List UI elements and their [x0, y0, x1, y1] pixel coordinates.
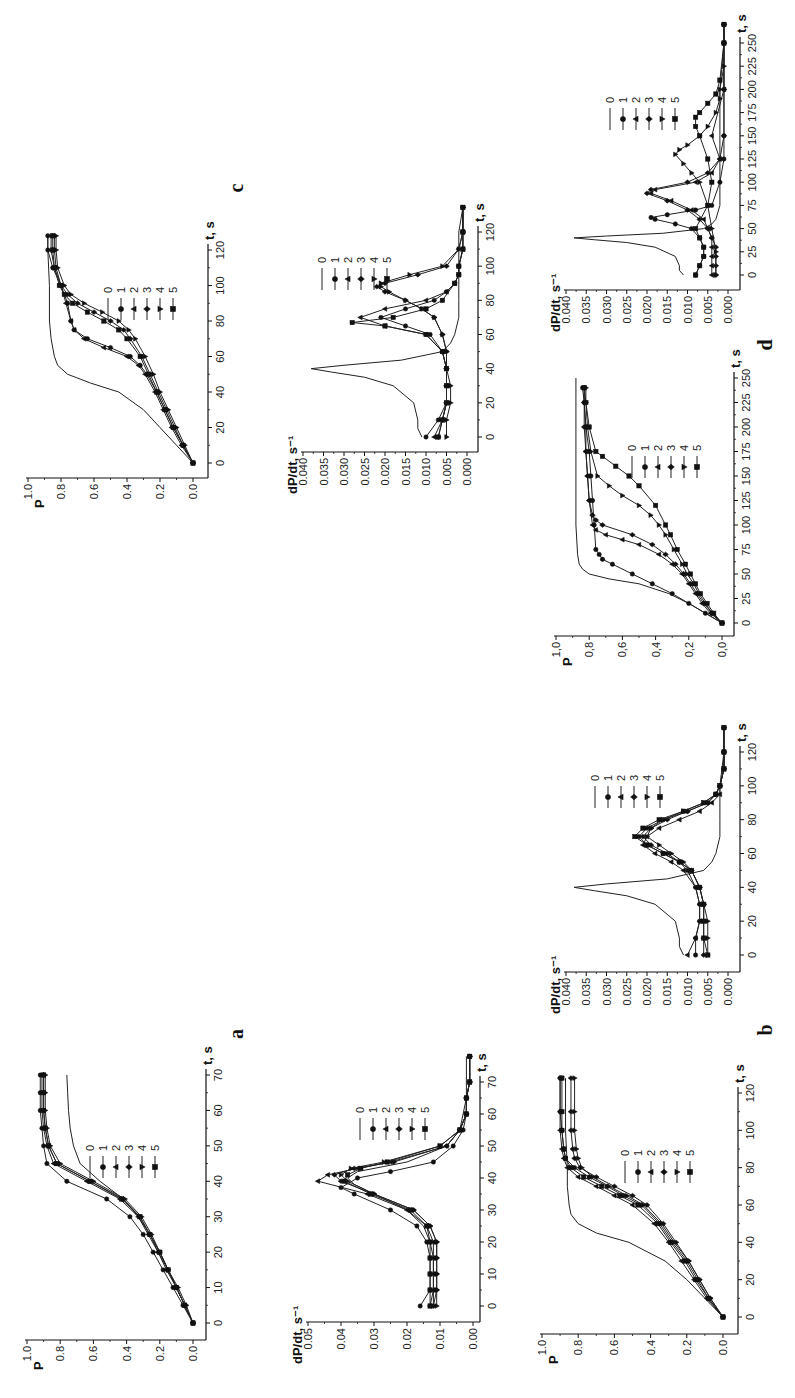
- triangle-up-marker: [697, 809, 701, 814]
- x-tick-label: 100: [744, 1121, 756, 1139]
- square-marker: [720, 621, 724, 625]
- x-tick-label: 50: [740, 568, 752, 580]
- y-axis-title: P: [31, 1361, 46, 1370]
- x-tick-label: 80: [744, 1162, 756, 1174]
- square-marker: [582, 386, 586, 390]
- y-tick-label: 0.035: [580, 296, 592, 324]
- x-tick-label: 40: [746, 881, 758, 893]
- triangle-up-marker: [677, 817, 681, 822]
- diamond-marker: [91, 310, 97, 315]
- circle-marker: [630, 572, 634, 576]
- circle-marker: [620, 116, 625, 121]
- series-4: [339, 1054, 472, 1308]
- square-marker: [155, 390, 159, 394]
- square-marker: [152, 1164, 157, 1169]
- x-tick-label: 80: [484, 294, 496, 306]
- square-marker: [428, 1256, 432, 1260]
- square-marker: [697, 110, 701, 114]
- square-marker: [683, 1259, 687, 1263]
- series-5: [582, 386, 724, 626]
- square-marker: [706, 203, 710, 207]
- square-marker: [345, 1173, 349, 1177]
- legend: 012345: [354, 1107, 431, 1140]
- legend-label: 1: [329, 257, 341, 263]
- y-tick-label: 0.025: [359, 458, 371, 486]
- square-marker: [633, 834, 637, 838]
- square-marker: [425, 1224, 429, 1228]
- circle-marker: [424, 435, 428, 439]
- square-marker: [102, 319, 106, 323]
- square-marker: [687, 1169, 692, 1174]
- y-axis-title: dP/dt, s⁻¹: [548, 956, 563, 1014]
- square-marker: [668, 1240, 672, 1244]
- y-axis-title: dP/dt, s⁻¹: [548, 274, 563, 332]
- series-0: [348, 1056, 467, 1306]
- diamond-marker: [713, 245, 719, 250]
- circle-marker: [415, 1224, 419, 1228]
- triangle-up-marker: [101, 345, 105, 350]
- triangle-down-marker: [410, 1126, 415, 1132]
- triangle-up-marker: [423, 298, 427, 303]
- y-tick-label: 0.020: [641, 296, 653, 324]
- square-marker: [461, 247, 465, 251]
- x-tick-label: 120: [484, 223, 496, 241]
- x-tick-label: 100: [214, 276, 226, 294]
- y-tick-label: 0.4: [121, 1346, 133, 1361]
- legend: 012345: [604, 97, 681, 130]
- square-marker: [702, 936, 706, 940]
- circle-marker: [428, 332, 432, 336]
- legend-label: 4: [671, 1150, 683, 1156]
- y-tick-label: 0.0: [717, 1340, 729, 1355]
- x-axis-title: t, s: [474, 1053, 489, 1072]
- square-marker: [51, 234, 55, 238]
- y-tick-label: 0.2: [154, 1346, 166, 1361]
- series-3: [581, 385, 725, 625]
- x-tick-label: 25: [746, 246, 758, 258]
- circle-marker: [65, 1179, 69, 1183]
- circle-marker: [718, 180, 722, 184]
- series-line: [575, 1078, 723, 1317]
- square-marker: [594, 449, 598, 453]
- square-marker: [438, 1144, 442, 1148]
- triangle-up-marker: [633, 116, 638, 122]
- square-marker: [627, 474, 631, 478]
- triangle-up-marker: [685, 953, 689, 958]
- x-tick-label: 0: [744, 1314, 756, 1320]
- y-tick-label: 0.015: [661, 296, 673, 324]
- x-tick-label: 30: [486, 1204, 498, 1216]
- legend-label: 3: [658, 1150, 670, 1156]
- square-marker: [408, 1208, 412, 1212]
- triangle-up-marker: [669, 860, 673, 865]
- triangle-up-marker: [593, 527, 597, 532]
- y-tick-label: 0.015: [661, 978, 673, 1006]
- x-tick-label: 60: [214, 350, 226, 362]
- square-marker: [714, 92, 718, 96]
- y-tick-label: 0.2: [681, 1340, 693, 1355]
- square-marker: [440, 418, 444, 422]
- legend-label: 0: [626, 445, 638, 451]
- legend-label: 1: [639, 445, 651, 451]
- square-marker: [702, 919, 706, 923]
- x-tick-label: 10: [212, 1281, 224, 1293]
- square-marker: [697, 134, 701, 138]
- series-3: [374, 205, 466, 439]
- legend-label: 4: [678, 445, 690, 451]
- square-marker: [166, 1268, 170, 1272]
- x-tick-label: 0: [746, 272, 758, 278]
- x-tick-label: 125: [740, 491, 752, 509]
- x-tick-label: 40: [484, 363, 496, 375]
- x-tick-label: 40: [744, 1236, 756, 1248]
- series-line: [341, 1056, 470, 1306]
- series-line: [635, 728, 724, 955]
- square-marker: [461, 230, 465, 234]
- square-marker: [468, 1054, 472, 1058]
- square-marker: [688, 572, 692, 576]
- square-marker: [614, 464, 618, 468]
- square-marker: [369, 1192, 373, 1196]
- series-5: [560, 1076, 725, 1319]
- square-marker: [440, 298, 444, 302]
- series-4: [379, 205, 465, 439]
- square-marker: [183, 1303, 187, 1307]
- y-tick-label: 0.4: [645, 1340, 657, 1355]
- triangle-up-marker: [315, 1179, 319, 1184]
